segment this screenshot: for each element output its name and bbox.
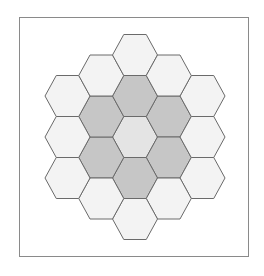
hex-grid	[0, 0, 264, 276]
